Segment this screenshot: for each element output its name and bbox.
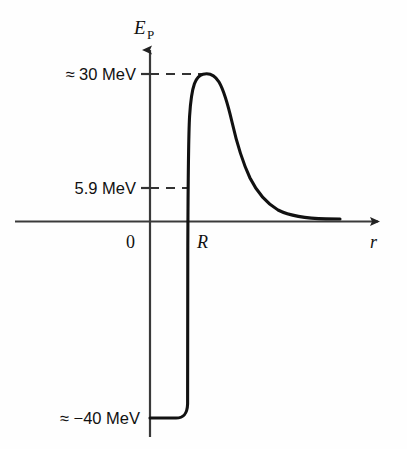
plot-canvas: E P r 0 R ≈ 30 MeV 5.9 MeV ≈ −40 MeV xyxy=(0,0,407,449)
origin-label: 0 xyxy=(126,232,135,252)
y-axis-label: E xyxy=(133,17,146,38)
guide-lines xyxy=(150,74,211,188)
y-axis-label-subscript: P xyxy=(147,27,154,42)
x-axis-label: r xyxy=(370,232,378,252)
y-tick-label-5p9mev: 5.9 MeV xyxy=(75,179,136,197)
potential-energy-diagram: E P r 0 R ≈ 30 MeV 5.9 MeV ≈ −40 MeV xyxy=(0,0,407,449)
y-tick-marks xyxy=(141,74,150,188)
y-tick-label-minus40mev: ≈ −40 MeV xyxy=(60,409,140,427)
y-axis-label-group: E P xyxy=(133,17,154,42)
curve-path xyxy=(150,74,340,418)
potential-energy-curve xyxy=(150,74,340,418)
x-tick-label-R: R xyxy=(196,232,208,252)
y-tick-label-30mev: ≈ 30 MeV xyxy=(65,65,136,83)
